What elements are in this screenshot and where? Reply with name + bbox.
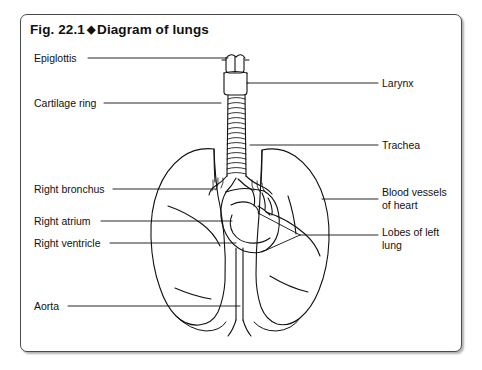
diamond-icon: ◆: [85, 23, 97, 36]
label-aorta: Aorta: [34, 300, 59, 313]
figure-number: Fig. 22.1: [30, 22, 85, 37]
label-lobes-of-left-lung: Lobes of left lung: [382, 226, 439, 252]
label-epiglottis: Epiglottis: [34, 52, 77, 65]
label-blood-vessels-of-heart: Blood vessels of heart: [382, 186, 447, 212]
label-right-bronchus: Right bronchus: [34, 183, 105, 196]
label-trachea: Trachea: [382, 139, 420, 152]
figure-title: Fig. 22.1◆Diagram of lungs: [30, 22, 209, 37]
figure-title-text: Diagram of lungs: [97, 22, 209, 37]
label-larynx: Larynx: [382, 77, 414, 90]
label-right-atrium: Right atrium: [34, 215, 91, 228]
label-right-ventricle: Right ventricle: [34, 237, 101, 250]
figure-root: Fig. 22.1◆Diagram of lungs: [0, 0, 482, 370]
label-cartilage-ring: Cartilage ring: [34, 97, 96, 110]
